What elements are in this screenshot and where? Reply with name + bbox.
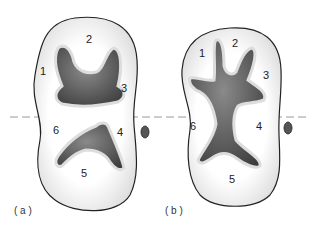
region-label-a-5: 5 (81, 167, 87, 179)
side-nodule-a (141, 126, 149, 138)
diagram-canvas: 2 1 3 6 4 5 ( a ) 1 2 3 6 4 5 ( b ) (0, 0, 314, 230)
region-label-b-4: 4 (256, 120, 262, 132)
region-label-a-4: 4 (117, 126, 123, 138)
region-label-b-2: 2 (232, 37, 238, 49)
region-label-a-6: 6 (53, 124, 59, 136)
tooth-outline-a (34, 17, 137, 210)
figure-b: 1 2 3 6 4 5 ( b ) (165, 28, 292, 216)
figure-caption-a: ( a ) (14, 205, 32, 216)
figure-caption-b: ( b ) (165, 205, 183, 216)
region-label-b-6: 6 (190, 120, 196, 132)
region-label-b-1: 1 (199, 47, 205, 59)
region-label-a-1: 1 (40, 65, 46, 77)
side-nodule-b (284, 122, 292, 134)
region-label-b-5: 5 (229, 173, 235, 185)
region-label-a-3: 3 (121, 82, 127, 94)
region-label-a-2: 2 (86, 33, 92, 45)
region-label-b-3: 3 (263, 69, 269, 81)
